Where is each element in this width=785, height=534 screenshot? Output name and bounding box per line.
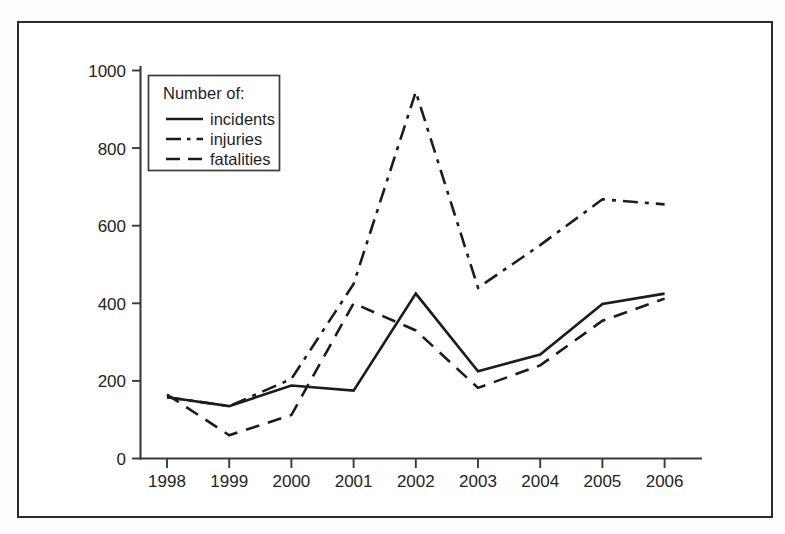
legend: Number of: incidents injuries fatalities xyxy=(149,76,280,171)
series-line-incidents xyxy=(167,294,665,407)
x-tick-label: 2003 xyxy=(459,472,497,491)
legend-label-injuries: injuries xyxy=(210,130,262,148)
x-axis-ticks: 1998 1999 2000 2001 2002 2003 2004 2005 … xyxy=(148,459,683,492)
x-tick-label: 2002 xyxy=(397,472,435,491)
x-tick-label: 1999 xyxy=(210,472,248,491)
y-tick-label: 600 xyxy=(98,217,126,236)
legend-label-incidents: incidents xyxy=(210,110,275,128)
x-tick-label: 2004 xyxy=(521,472,559,491)
x-tick-label: 1998 xyxy=(148,472,186,491)
y-axis-ticks: 0 200 400 600 800 1000 xyxy=(88,62,140,469)
x-tick-label: 2000 xyxy=(272,472,310,491)
line-chart: 0 200 400 600 800 1000 1998 1999 2000 20… xyxy=(0,0,785,534)
legend-label-fatalities: fatalities xyxy=(210,150,271,168)
y-tick-label: 400 xyxy=(98,295,126,314)
y-tick-label: 800 xyxy=(98,140,126,159)
series-line-fatalities xyxy=(167,299,665,436)
y-tick-label: 0 xyxy=(117,450,126,469)
x-tick-label: 2006 xyxy=(646,472,684,491)
figure-root: 0 200 400 600 800 1000 1998 1999 2000 20… xyxy=(0,0,785,534)
y-tick-label: 200 xyxy=(98,372,126,391)
x-tick-label: 2001 xyxy=(335,472,373,491)
legend-title: Number of: xyxy=(163,84,245,102)
x-tick-label: 2005 xyxy=(583,472,621,491)
y-tick-label: 1000 xyxy=(88,62,126,81)
